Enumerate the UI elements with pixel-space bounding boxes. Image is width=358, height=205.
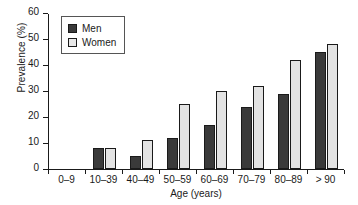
bar-men-6 (278, 94, 289, 169)
y-tick-label: 30 (28, 84, 39, 95)
y-tick: 50 (43, 39, 48, 40)
y-tick-label: 20 (28, 110, 39, 121)
bar-women-1 (105, 148, 116, 169)
y-tick-label: 40 (28, 58, 39, 69)
x-tick (344, 170, 345, 174)
y-tick: 10 (43, 143, 48, 144)
bar-men-7 (315, 52, 326, 169)
bar-women-4 (216, 91, 227, 169)
x-tick-label: 0–9 (58, 174, 75, 185)
x-axis-title: Age (years) (48, 188, 344, 199)
bar-men-1 (93, 148, 104, 169)
bar-men-5 (241, 107, 252, 169)
y-tick-label: 10 (28, 136, 39, 147)
y-tick: 60 (43, 13, 48, 14)
x-tick-label: 50–59 (164, 174, 192, 185)
y-tick: 30 (43, 91, 48, 92)
y-axis-title: Prevalence (%) (16, 0, 27, 123)
y-tick-label: 0 (33, 162, 39, 173)
y-tick-label: 60 (28, 6, 39, 17)
x-tick-label: 60–69 (201, 174, 229, 185)
x-tick-label: 40–49 (127, 174, 155, 185)
x-tick-label: > 90 (316, 174, 336, 185)
bar-men-2 (130, 156, 141, 169)
x-tick-label: 80–89 (275, 174, 303, 185)
x-axis-tick-labels: 0–910–3940–4950–5960–6970–7980–89> 90 (48, 174, 344, 188)
bar-chart: Prevalence (%) 0102030405060 0–910–3940–… (0, 0, 358, 205)
x-tick-label: 10–39 (90, 174, 118, 185)
bar-women-7 (327, 44, 338, 169)
y-tick-label: 50 (28, 32, 39, 43)
legend-swatch-men-icon (68, 24, 77, 33)
y-tick: 20 (43, 117, 48, 118)
bar-women-3 (179, 104, 190, 169)
legend-item-men: Men (68, 21, 116, 35)
bar-men-4 (204, 125, 215, 169)
bar-women-6 (290, 60, 301, 169)
bar-women-2 (142, 140, 153, 169)
x-tick-label: 70–79 (238, 174, 266, 185)
bar-men-3 (167, 138, 178, 169)
chart-legend: Men Women (61, 16, 125, 54)
legend-swatch-women-icon (68, 38, 77, 47)
legend-label-women: Women (82, 37, 116, 48)
y-tick: 40 (43, 65, 48, 66)
bar-women-5 (253, 86, 264, 169)
legend-item-women: Women (68, 35, 116, 49)
legend-label-men: Men (82, 23, 101, 34)
